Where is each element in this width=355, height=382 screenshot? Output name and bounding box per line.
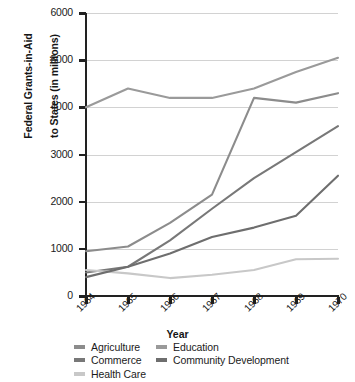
legend-item[interactable]: Community Development: [156, 354, 289, 368]
legend-swatch-icon: [74, 358, 85, 362]
y-axis-label: 3000: [33, 148, 73, 160]
legend-label: Health Care: [91, 368, 146, 380]
series-line: [86, 259, 338, 278]
y-axis-title-line2: to States (in millions): [48, 34, 60, 138]
y-axis-title-line1: Federal Grants-in-Aid: [22, 33, 34, 138]
legend-column-2: EducationCommunity Development: [156, 340, 289, 367]
y-axis-label: 6000: [33, 6, 73, 18]
x-axis-label: 1964: [74, 291, 97, 314]
gridline: [86, 202, 338, 203]
legend-column-1: AgricultureCommerceHealth Care: [74, 340, 146, 381]
legend-swatch-icon: [156, 345, 167, 349]
gridline: [86, 60, 338, 61]
legend-label: Education: [173, 341, 219, 353]
legend-item[interactable]: Health Care: [74, 367, 146, 381]
y-axis-label: 2000: [33, 195, 73, 207]
gridline: [86, 13, 338, 14]
legend-label: Community Development: [173, 354, 289, 366]
series-line: [86, 58, 338, 108]
gridline: [86, 107, 338, 108]
legend-label: Agriculture: [91, 341, 140, 353]
legend-item[interactable]: Commerce: [74, 354, 146, 368]
y-axis-label: 5000: [33, 53, 73, 65]
x-axis-title: Year: [0, 328, 355, 340]
series-line: [86, 93, 338, 251]
y-axis-line: [85, 13, 87, 297]
y-axis-label: 4000: [33, 100, 73, 112]
legend-item[interactable]: Agriculture: [74, 340, 146, 354]
gridline: [86, 249, 338, 250]
legend-item[interactable]: Education: [156, 340, 289, 354]
series-line: [86, 176, 338, 277]
legend-swatch-icon: [74, 372, 85, 376]
series-line: [86, 126, 338, 272]
legend-label: Commerce: [91, 354, 142, 366]
legend-swatch-icon: [156, 358, 167, 362]
y-axis-label: 0: [33, 289, 73, 301]
y-axis-label: 1000: [33, 242, 73, 254]
legend-swatch-icon: [74, 345, 85, 349]
chart-figure: Federal Grants-in-Aid to States (in mill…: [0, 0, 355, 382]
gridline: [86, 155, 338, 156]
